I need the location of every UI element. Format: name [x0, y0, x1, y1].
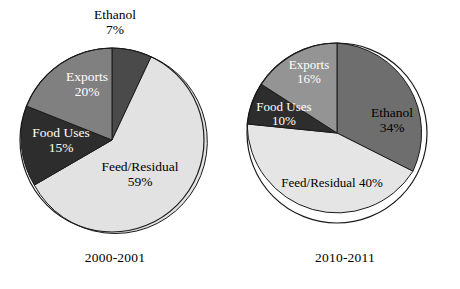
pie-chart-figure: Ethanol 7% Exports 20% Food Uses 15% Fee…: [0, 0, 460, 289]
chart-caption-2010-2011: 2010-2011: [230, 250, 460, 266]
pie-left-svg: [0, 0, 230, 289]
pie-right-svg: [230, 0, 460, 289]
chart-panel-2010-2011: Exports 16% Food Uses 10% Ethanol 34% Fe…: [230, 0, 460, 289]
chart-caption-2000-2001: 2000-2001: [0, 250, 230, 266]
chart-panel-2000-2001: Ethanol 7% Exports 20% Food Uses 15% Fee…: [0, 0, 230, 289]
